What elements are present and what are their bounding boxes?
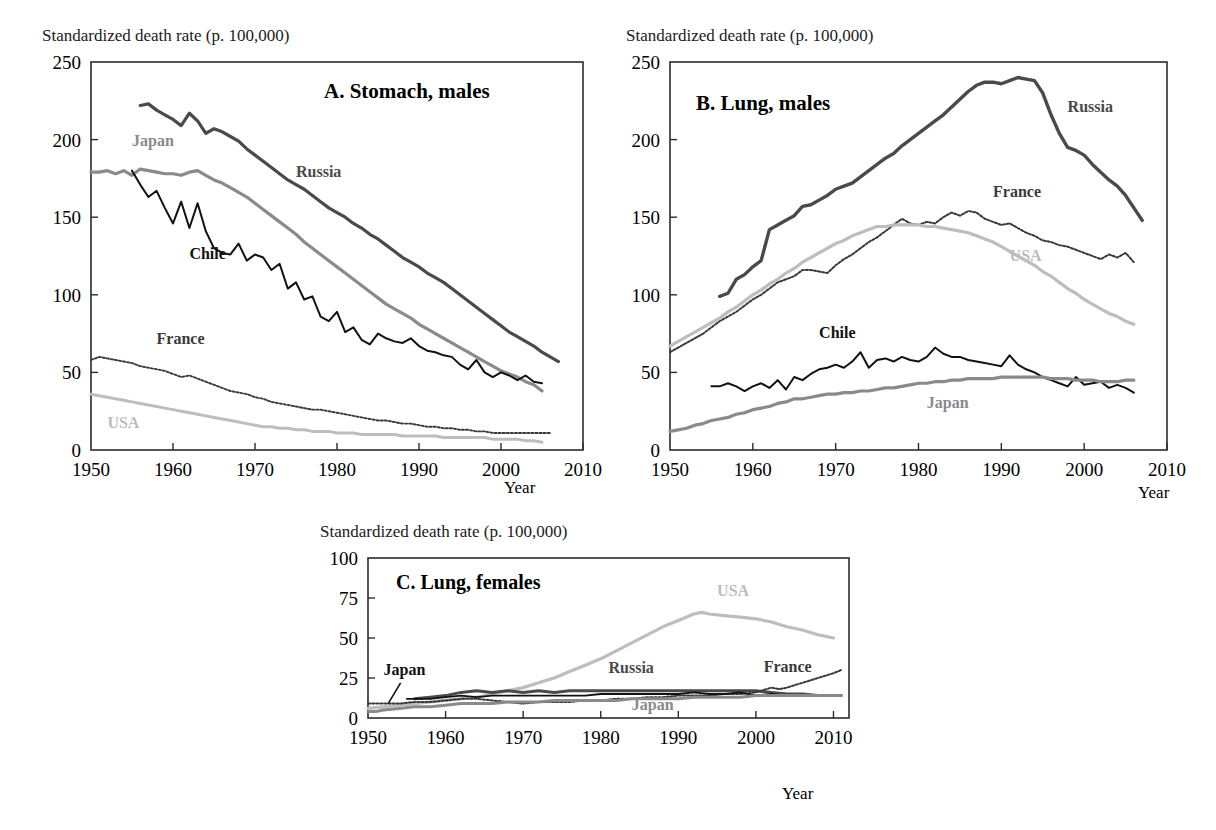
x-tick-label: 1960 xyxy=(154,459,192,480)
series-label-france: France xyxy=(764,658,812,675)
y-tick-label: 25 xyxy=(339,668,358,689)
panel-title: C. Lung, females xyxy=(396,571,541,594)
x-tick-label: 1970 xyxy=(817,459,855,480)
y-tick-label: 50 xyxy=(641,362,660,383)
series-line-chile xyxy=(132,171,542,384)
series-label-japan: Japan xyxy=(632,696,674,714)
x-tick-label: 1950 xyxy=(349,727,387,748)
x-tick-label: 1950 xyxy=(72,459,110,480)
y-tick-label: 200 xyxy=(53,130,82,151)
y-tick-label: 0 xyxy=(349,708,359,729)
x-tick-label: 1990 xyxy=(982,459,1020,480)
chart-canvas-b: 0501001502002501950196019701980199020002… xyxy=(618,48,1198,493)
x-tick-label: 1960 xyxy=(427,727,465,748)
y-axis-caption-b: Standardized death rate (p. 100,000) xyxy=(626,26,873,46)
japan-leader-line xyxy=(388,683,400,704)
series-label-chile: Chile xyxy=(819,324,855,341)
series-label-japan: Japan xyxy=(927,394,969,412)
panel-lung-males: Standardized death rate (p. 100,000) 050… xyxy=(618,26,1198,496)
x-axis-caption-a: Year xyxy=(504,478,535,498)
y-tick-label: 150 xyxy=(632,207,661,228)
series-line-france xyxy=(670,211,1134,352)
y-tick-label: 100 xyxy=(53,285,82,306)
panel-title: B. Lung, males xyxy=(696,91,830,115)
x-tick-label: 1960 xyxy=(734,459,772,480)
panel-lung-females: Standardized death rate (p. 100,000) 025… xyxy=(312,522,932,822)
y-tick-label: 0 xyxy=(651,440,661,461)
y-tick-label: 250 xyxy=(632,52,661,73)
x-tick-label: 2000 xyxy=(1065,459,1103,480)
x-axis-caption-b: Year xyxy=(1138,483,1169,503)
series-label-france: France xyxy=(993,183,1041,200)
series-label-chile: Chile xyxy=(189,245,225,262)
x-axis-caption-c: Year xyxy=(782,784,813,804)
y-tick-label: 50 xyxy=(339,628,358,649)
x-tick-label: 1990 xyxy=(400,459,438,480)
x-tick-label: 2010 xyxy=(814,727,852,748)
y-tick-label: 100 xyxy=(632,285,661,306)
y-tick-label: 200 xyxy=(632,130,661,151)
x-tick-label: 1980 xyxy=(582,727,620,748)
series-line-usa xyxy=(670,225,1134,346)
x-tick-label: 1950 xyxy=(651,459,689,480)
panel-stomach-males: Standardized death rate (p. 100,000) 050… xyxy=(34,26,614,496)
series-label-usa: USA xyxy=(107,414,139,431)
series-label-france: France xyxy=(157,330,205,347)
series-label-russia: Russia xyxy=(609,659,654,676)
series-label-usa: USA xyxy=(1010,247,1042,264)
series-label-japan: Japan xyxy=(132,132,174,150)
x-tick-label: 2010 xyxy=(564,459,602,480)
series-line-usa xyxy=(91,394,542,442)
y-tick-label: 100 xyxy=(330,548,359,569)
series-label-japan: Japan xyxy=(384,661,426,679)
y-tick-label: 0 xyxy=(72,440,82,461)
series-line-chile xyxy=(711,348,1133,393)
y-tick-label: 150 xyxy=(53,207,82,228)
chart-canvas-c: 02550751001950196019701980199020002010US… xyxy=(312,544,932,794)
x-tick-label: 2000 xyxy=(737,727,775,748)
x-tick-label: 2000 xyxy=(482,459,520,480)
y-tick-label: 75 xyxy=(339,588,358,609)
x-tick-label: 1970 xyxy=(504,727,542,748)
y-tick-label: 250 xyxy=(53,52,82,73)
x-tick-label: 1980 xyxy=(318,459,356,480)
series-label-usa: USA xyxy=(717,582,749,599)
series-line-japan xyxy=(91,169,542,391)
x-tick-label: 1970 xyxy=(236,459,274,480)
series-label-russia: Russia xyxy=(1068,98,1113,115)
series-label-russia: Russia xyxy=(296,163,341,180)
chart-canvas-a: 0501001502002501950196019701980199020002… xyxy=(34,48,614,493)
x-tick-label: 1980 xyxy=(900,459,938,480)
panel-title: A. Stomach, males xyxy=(324,79,490,103)
series-line-russia xyxy=(140,104,558,362)
x-tick-label: 2010 xyxy=(1148,459,1186,480)
x-tick-label: 1990 xyxy=(659,727,697,748)
y-axis-caption-c: Standardized death rate (p. 100,000) xyxy=(320,522,567,542)
y-axis-caption-a: Standardized death rate (p. 100,000) xyxy=(42,26,289,46)
y-tick-label: 50 xyxy=(62,362,81,383)
